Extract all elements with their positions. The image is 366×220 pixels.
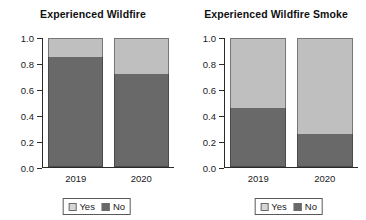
bar-segment-yes[interactable] bbox=[48, 38, 103, 57]
bar-segment-yes[interactable] bbox=[297, 38, 353, 134]
legend-label: Yes bbox=[271, 201, 287, 212]
y-axis-tick-label: 0.2 bbox=[21, 137, 34, 148]
chart-panel-experienced-wildfire: Experienced Wildfire 1.0 0.8 0.6 0.4 0.2… bbox=[0, 0, 186, 220]
bar-segment-no[interactable] bbox=[297, 134, 353, 167]
y-axis-tick bbox=[37, 64, 42, 65]
y-axis-tick bbox=[219, 168, 224, 169]
legend-label: Yes bbox=[79, 201, 95, 212]
plot-area: 1.0 0.8 0.6 0.4 0.2 0.0 2019 2020 bbox=[224, 38, 358, 168]
bar-group[interactable] bbox=[114, 38, 169, 167]
x-axis-tick-label: 2019 bbox=[48, 173, 103, 184]
y-axis-tick-label: 0.6 bbox=[21, 85, 34, 96]
stacked-bar-chart-figure: Experienced Wildfire 1.0 0.8 0.6 0.4 0.2… bbox=[0, 0, 366, 220]
y-axis-tick bbox=[37, 168, 42, 169]
y-axis-tick-label: 1.0 bbox=[21, 33, 34, 44]
y-axis-tick-label: 0.6 bbox=[203, 85, 216, 96]
y-axis-tick bbox=[219, 38, 224, 39]
y-axis-tick bbox=[219, 142, 224, 143]
y-axis-tick-label: 0.8 bbox=[21, 59, 34, 70]
x-axis-tick-label: 2020 bbox=[297, 173, 353, 184]
x-axis-tick-labels: 2019 2020 bbox=[225, 173, 358, 184]
legend-swatch-no-icon bbox=[294, 203, 302, 211]
y-axis-tick-label: 0.4 bbox=[21, 111, 34, 122]
bar-segment-yes[interactable] bbox=[230, 38, 286, 108]
y-axis-tick-label: 0.8 bbox=[203, 59, 216, 70]
legend: Yes No bbox=[254, 198, 323, 215]
y-axis-tick-label: 0.2 bbox=[203, 137, 216, 148]
bar-group[interactable] bbox=[48, 38, 103, 167]
x-axis-tick-label: 2019 bbox=[230, 173, 286, 184]
panel-title: Experienced Wildfire bbox=[0, 8, 186, 20]
legend-label: No bbox=[305, 201, 317, 212]
bars-container bbox=[43, 38, 174, 167]
y-axis-tick bbox=[37, 116, 42, 117]
x-axis-line bbox=[224, 167, 358, 168]
y-axis-tick bbox=[37, 90, 42, 91]
y-axis-tick-label: 1.0 bbox=[203, 33, 216, 44]
bar-group[interactable] bbox=[230, 38, 286, 167]
y-axis-tick bbox=[37, 142, 42, 143]
legend-label: No bbox=[113, 201, 125, 212]
y-axis-tick-label: 0.0 bbox=[21, 163, 34, 174]
y-axis-tick-label: 0.4 bbox=[203, 111, 216, 122]
bar-group[interactable] bbox=[297, 38, 353, 167]
legend-swatch-yes-icon bbox=[260, 203, 268, 211]
legend-item-yes[interactable]: Yes bbox=[260, 201, 287, 212]
x-axis-tick-label: 2020 bbox=[114, 173, 169, 184]
panel-title: Experienced Wildfire Smoke bbox=[186, 8, 366, 20]
x-axis-tick-labels: 2019 2020 bbox=[43, 173, 174, 184]
x-axis-line bbox=[42, 167, 174, 168]
y-axis-tick bbox=[219, 116, 224, 117]
bar-segment-no[interactable] bbox=[114, 74, 169, 167]
bar-segment-no[interactable] bbox=[48, 57, 103, 167]
legend-swatch-no-icon bbox=[102, 203, 110, 211]
bars-container bbox=[225, 38, 358, 167]
legend-item-no[interactable]: No bbox=[294, 201, 317, 212]
legend-item-yes[interactable]: Yes bbox=[68, 201, 95, 212]
bar-segment-no[interactable] bbox=[230, 108, 286, 167]
plot-area: 1.0 0.8 0.6 0.4 0.2 0.0 2019 2020 bbox=[42, 38, 174, 168]
legend-swatch-yes-icon bbox=[68, 203, 76, 211]
y-axis-tick bbox=[219, 64, 224, 65]
legend-item-no[interactable]: No bbox=[102, 201, 125, 212]
y-axis-tick bbox=[219, 90, 224, 91]
chart-panel-experienced-wildfire-smoke: Experienced Wildfire Smoke 1.0 0.8 0.6 0… bbox=[186, 0, 366, 220]
y-axis-tick-label: 0.0 bbox=[203, 163, 216, 174]
bar-segment-yes[interactable] bbox=[114, 38, 169, 74]
legend: Yes No bbox=[62, 198, 131, 215]
y-axis-tick bbox=[37, 38, 42, 39]
